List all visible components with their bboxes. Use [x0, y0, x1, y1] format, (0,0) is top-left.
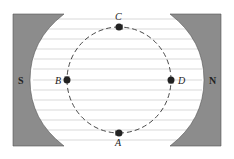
- particle-d: [168, 77, 175, 84]
- south-pole-label: S: [18, 75, 24, 86]
- particle-c: [116, 24, 123, 31]
- label-b: B: [55, 75, 61, 86]
- label-a: A: [114, 137, 122, 148]
- particle-a: [116, 130, 123, 137]
- particle-b: [64, 77, 71, 84]
- diagram: S N C D A B: [0, 0, 234, 159]
- label-c: C: [115, 11, 122, 22]
- north-pole-label: N: [209, 75, 217, 86]
- label-d: D: [177, 75, 186, 86]
